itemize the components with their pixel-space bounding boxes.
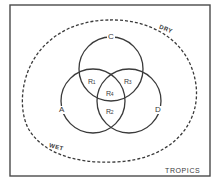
region-label-r1: R1 [88,78,95,85]
region-label-r3: R3 [124,78,131,85]
venn-diagram: C A D R1 R3 R4 R2 DRY WET TROPICS [0,0,217,188]
region-r2-index: 2 [111,109,114,115]
tropics-label: TROPICS [165,167,200,174]
circle-label-c: C [107,33,115,41]
region-r1-index: 1 [93,79,96,85]
region-r4-index: 4 [111,91,114,97]
region-label-r4: R4 [106,90,113,97]
region-r3-index: 3 [129,79,132,85]
region-label-r2: R2 [106,108,113,115]
circle-label-a: A [58,106,65,114]
circle-label-d: D [154,106,162,114]
